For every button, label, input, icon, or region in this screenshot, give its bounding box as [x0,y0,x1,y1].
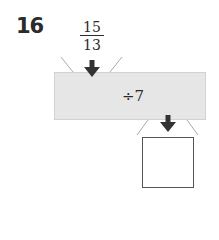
input-arrow-down-icon [84,60,100,77]
answer-box[interactable] [142,137,194,188]
output-arrow-down-icon [160,115,176,132]
